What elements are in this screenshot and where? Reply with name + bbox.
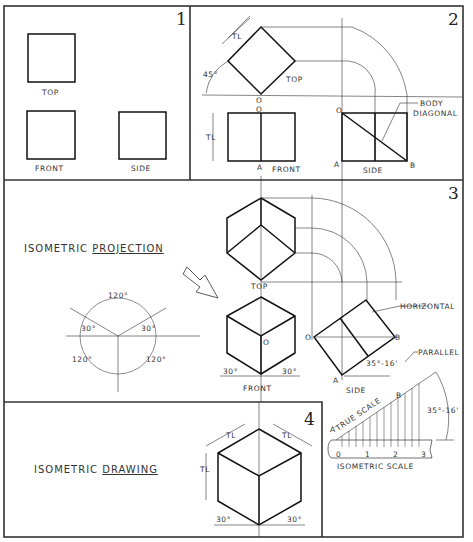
label-a-side-3: A [333, 376, 339, 385]
front-view-square [27, 111, 75, 159]
label-tl-front: TL [205, 133, 216, 142]
label-45-degree: 45° [203, 70, 218, 79]
label-35-16-side: 35°-16' [366, 359, 398, 368]
label-front: FRONT [35, 164, 64, 173]
isometric-drawing-title: ISOMETRIC DRAWING [34, 464, 158, 475]
label-o-front-3: O [263, 338, 270, 347]
label-30-front-right: 30° [282, 367, 297, 376]
scale-tick-2: 2 [393, 450, 398, 459]
panel-1-number: 1 [176, 9, 187, 29]
label-30-front-left: 30° [223, 367, 238, 376]
scale-tick-1: 1 [365, 450, 370, 459]
label-o-side-3: O [305, 333, 312, 342]
label-parallel: PARALLEL [418, 348, 460, 357]
label-side-3: SIDE [346, 386, 366, 395]
panel-3-number: 3 [448, 183, 459, 203]
label-tl-left: TL [225, 431, 236, 440]
label-30-left-4: 30° [216, 515, 231, 524]
label-a-scale: A [330, 425, 336, 434]
label-30-left: 30° [81, 324, 96, 333]
label-a-front: A [257, 163, 263, 172]
true-scale-line [336, 372, 436, 440]
label-35-16-scale: 35°-16' [427, 406, 459, 415]
label-120-top: 120° [108, 291, 128, 300]
label-tl-height: TL [199, 465, 210, 474]
scale-tick-3: 3 [421, 450, 426, 459]
scale-tick-0: 0 [336, 450, 341, 459]
label-top: TOP [41, 88, 59, 97]
label-horizontal: HORIZONTAL [400, 302, 455, 311]
label-diagonal: DIAGONAL [413, 109, 458, 118]
panel-4-number: 4 [304, 409, 315, 429]
panel-1: 1 TOP FRONT SIDE [27, 9, 187, 173]
label-front-2: FRONT [272, 165, 301, 174]
panel-4: 4 ISOMETRIC DRAWING TL TL TL 30° 30° [34, 402, 315, 537]
label-o-side: O [336, 106, 343, 115]
label-top-2: TOP [285, 75, 303, 84]
label-true-scale: TRUE SCALE [333, 396, 382, 433]
label-side: SIDE [131, 164, 151, 173]
label-side-2: SIDE [363, 166, 383, 175]
panel-2: 2 TL 45° TOP O O TL A FRONT O A B SIDE B… [202, 9, 462, 180]
label-front-3: FRONT [243, 384, 272, 393]
label-120-left: 120° [72, 355, 92, 364]
panel-3: 3 ISOMETRIC PROJECTION 120° 30° 30° 120°… [24, 176, 460, 471]
label-b-scale: B [396, 391, 402, 400]
label-b-side: B [410, 161, 416, 170]
isometric-projection-title: ISOMETRIC PROJECTION [24, 243, 164, 254]
label-120-right: 120° [146, 355, 166, 364]
isometric-projection-diagram: 1 TOP FRONT SIDE 2 TL 45° TOP O O TL A F… [0, 0, 473, 542]
label-body: BODY [420, 99, 443, 108]
label-tl-top: TL [231, 32, 242, 41]
label-isometric-scale: ISOMETRIC SCALE [337, 462, 414, 471]
label-a-side: A [334, 160, 340, 169]
arrow-icon [183, 267, 218, 298]
label-30-right: 30° [141, 324, 156, 333]
label-30-right-4: 30° [287, 515, 302, 524]
top-view-square [28, 34, 75, 82]
label-b-side-3: B [395, 333, 401, 342]
isometric-scale-bar [328, 440, 432, 458]
label-o: O [256, 96, 263, 105]
panel-2-number: 2 [448, 9, 459, 29]
side-view-square [119, 112, 166, 159]
label-top-3: TOP [250, 282, 268, 291]
label-tl-right: TL [281, 431, 292, 440]
